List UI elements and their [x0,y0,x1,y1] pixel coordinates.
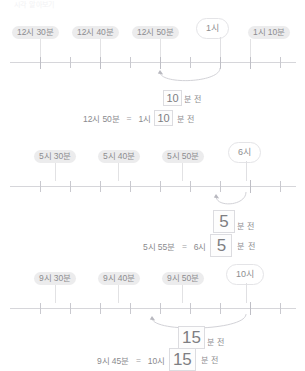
time-label-pill: 12시 30분 [12,26,59,39]
number-line-tick [70,57,71,68]
equation-answer-box[interactable]: 5 [210,234,232,257]
number-line-tick [220,303,221,314]
hour-callout-bubble: 6시 [228,142,261,163]
equation-left-term: 9시 45분 [97,354,129,366]
time-label-pill: 5시 50분 [162,150,204,163]
label-stem [100,39,101,57]
time-label-pill: 5시 40분 [98,150,140,163]
equation-unit-label: 분 전 [177,113,195,124]
time-label-pill: 9시 40분 [98,272,140,285]
label-stem [118,285,119,303]
number-line-tick [130,303,131,314]
time-label-pill: 1시 10분 [248,26,290,39]
number-line-tick [40,56,41,69]
label-stem [55,285,56,303]
label-stem [182,285,183,303]
equation-equals-sign: = [136,355,141,365]
number-line-tick [220,181,221,192]
number-line-tick [160,181,161,192]
label-stem [160,39,161,57]
number-line-tick [190,57,191,68]
problem-block-2: 5시 30분5시 40분5시 50분6시5분 전5시 55분=6시5분 전 [0,138,305,244]
equation-unit-label: 분 전 [201,354,219,365]
number-line-tick [100,303,101,314]
answer-input-box[interactable]: 15 [178,326,205,349]
label-stem [55,163,56,181]
arrow-head [214,194,219,199]
answer-input-box[interactable]: 10 [163,90,182,106]
number-line-tick [70,303,71,314]
number-line-axis [10,186,296,187]
cropped-header-text: 시각 알아보기 [14,0,134,9]
number-line-tick [100,181,101,192]
problem-block-1: 12시 30분12시 40분12시 50분1시 10분1시10분 전12시 50… [0,14,305,122]
arrow-head [158,70,163,75]
label-stem [118,163,119,181]
equation-row: 9시 45분=10시15분 전 [96,348,218,371]
answer-input-box[interactable]: 5 [213,210,235,233]
problem-block-3: 9시 30분9시 40분9시 50분10시15분 전9시 45분=10시15분 … [0,260,305,352]
bubble-tail [246,161,247,181]
number-line-tick [190,181,191,192]
answer-annotation: 15분 전 [178,326,225,349]
label-stem [182,163,183,181]
bubble-tail [246,283,247,303]
equation-equals-sign: = [182,241,187,251]
arrow-head [150,316,155,321]
equation-hour-term: 6시 [194,240,207,252]
answer-annotation: 10분 전 [163,90,202,106]
time-label-pill: 12시 40분 [72,26,119,39]
number-line-axis [10,62,296,63]
answer-unit-label: 분 전 [237,220,255,233]
number-line-tick [280,57,281,68]
equation-answer-box[interactable]: 15 [169,348,196,371]
equation-unit-label: 분 전 [237,240,255,251]
number-line-tick [190,303,191,314]
equation-equals-sign: = [127,113,132,123]
number-line-axis [10,308,296,309]
number-line-tick [130,57,131,68]
number-line-tick [40,181,41,192]
equation-hour-term: 10시 [148,354,165,366]
number-line-tick [280,303,281,314]
number-line-tick [40,303,41,314]
answer-annotation: 5분 전 [213,210,255,233]
time-label-pill: 9시 30분 [34,272,76,285]
equation-row: 5시 55분=6시5분 전 [142,234,255,257]
time-label-pill: 5시 30분 [34,150,76,163]
label-stem [40,39,41,57]
hour-callout-bubble: 1시 [196,18,229,39]
number-line-tick [100,56,101,69]
equation-row: 12시 50분=1시10분 전 [82,110,195,126]
number-line-tick [130,181,131,192]
number-line-2 [0,180,305,194]
hour-callout-bubble: 10시 [226,264,264,285]
answer-unit-label: 분 전 [184,93,202,106]
number-line-tick [280,181,281,192]
time-label-pill: 9시 50분 [162,272,204,285]
bubble-tail [220,37,221,57]
number-line-tick [70,181,71,192]
time-label-pill: 12시 50분 [132,26,179,39]
equation-answer-box[interactable]: 10 [154,110,173,126]
equation-left-term: 5시 55분 [143,240,175,252]
equation-left-term: 12시 50분 [83,112,120,124]
label-stem [250,39,251,57]
number-line-tick [250,56,251,69]
equation-hour-term: 1시 [138,112,151,124]
number-line-tick [160,303,161,314]
